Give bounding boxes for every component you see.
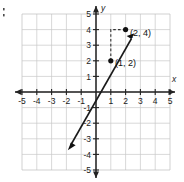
y-tick-label: -5 [83, 165, 91, 175]
x-axis [15, 89, 175, 95]
data-point-2-4 [123, 27, 128, 32]
coordinate-plane-svg: -5 -4 -3 -2 -1 1 2 3 4 5 5 4 3 2 1 -1 -2… [0, 0, 184, 182]
y-axis-arrow-up-icon [93, 6, 99, 13]
x-tick-label: -4 [33, 96, 41, 106]
x-tick-label: 2 [123, 96, 128, 106]
x-tick-label: 3 [138, 96, 143, 106]
data-point-1-2 [108, 58, 113, 63]
x-tick-label: -3 [48, 96, 56, 106]
x-axis-label: x [171, 74, 177, 84]
x-axis-arrow-left-icon [15, 89, 22, 95]
y-axis-label: y [100, 3, 106, 13]
y-axis-arrow-down-icon [93, 172, 99, 179]
line-arrow-down-icon [68, 142, 76, 150]
x-tick-label: -2 [63, 96, 71, 106]
x-tick-label: -5 [18, 96, 26, 106]
y-tick-label: 1 [86, 72, 91, 82]
point-1-2-label: (1, 2) [115, 58, 136, 68]
y-tick-label: -4 [83, 150, 91, 160]
x-tick-label: 5 [168, 96, 173, 106]
y-tick-label: 5 [86, 9, 91, 19]
y-tick-label: 3 [86, 40, 91, 50]
corner-dots-icon [3, 8, 5, 16]
y-tick-label: -3 [83, 134, 91, 144]
x-tick-label: 4 [153, 96, 158, 106]
point-2-4-label: (2, 4) [130, 28, 151, 38]
y-tick-label: 2 [86, 56, 91, 66]
coordinate-graph-figure: -5 -4 -3 -2 -1 1 2 3 4 5 5 4 3 2 1 -1 -2… [0, 0, 184, 182]
y-tick-label: 4 [86, 25, 91, 35]
x-tick-label: 1 [108, 96, 113, 106]
